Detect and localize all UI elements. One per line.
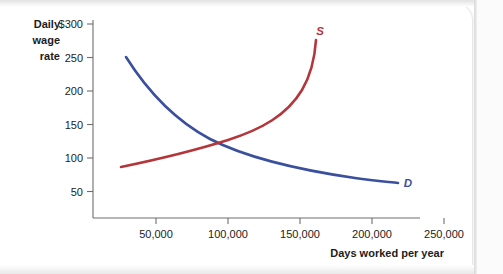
supply-curve-label: S — [316, 25, 324, 37]
y-tick-label: $300 — [59, 18, 83, 30]
plot-area: $300 250 200 150 100 50 50,000 100,000 1… — [0, 0, 474, 274]
x-tick-label: 150,000 — [280, 228, 320, 240]
demand-curve-label: D — [404, 177, 412, 189]
y-axis-title-line: Daily — [34, 18, 61, 30]
demand-curve — [126, 57, 398, 183]
y-axis-ticks — [87, 24, 93, 192]
x-axis-ticks — [156, 218, 444, 224]
x-tick-label: 100,000 — [208, 228, 248, 240]
x-tick-label: 50,000 — [139, 228, 173, 240]
y-axis-title-line: rate — [40, 50, 60, 62]
supply-curve — [121, 40, 316, 167]
y-tick-label: 150 — [65, 119, 83, 131]
x-tick-label: 250,000 — [424, 228, 464, 240]
y-tick-label: 50 — [71, 186, 83, 198]
supply-demand-figure: $300 250 200 150 100 50 50,000 100,000 1… — [0, 0, 474, 274]
x-axis-title: Days worked per year — [330, 247, 444, 259]
y-tick-label: 100 — [65, 152, 83, 164]
y-axis-title-line: wage — [31, 34, 60, 46]
side-panel — [477, 0, 503, 274]
y-tick-label: 200 — [65, 85, 83, 97]
x-tick-label: 200,000 — [352, 228, 392, 240]
y-tick-label: 250 — [65, 52, 83, 64]
